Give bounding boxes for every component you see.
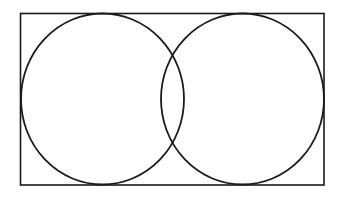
venn-diagram-canvas bbox=[0, 0, 347, 197]
left-set-circle bbox=[21, 14, 184, 185]
universal-set-rectangle bbox=[21, 14, 325, 186]
venn-diagram bbox=[0, 0, 347, 197]
right-set-circle bbox=[161, 14, 324, 185]
